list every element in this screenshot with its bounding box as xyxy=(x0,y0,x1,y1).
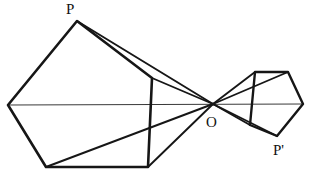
axis-line-group xyxy=(8,104,303,105)
ray-O-to-top-right-prime xyxy=(213,72,288,104)
geometry-figure: P O P' xyxy=(0,0,310,176)
vertex-label-p-prime: P' xyxy=(273,143,284,158)
figure-canvas xyxy=(0,0,310,176)
vertex-label-p: P xyxy=(66,2,74,17)
ray-O-to-right-top xyxy=(152,78,213,104)
left-polygon-group xyxy=(8,21,152,167)
left-polygon-outline xyxy=(8,21,152,167)
ray-O-to-bottom-left xyxy=(46,104,213,167)
vertex-label-o: O xyxy=(206,115,217,130)
center-point-O xyxy=(211,102,214,105)
axis-line xyxy=(8,104,303,105)
center-point-group xyxy=(211,102,214,105)
projection-rays-group xyxy=(46,21,288,167)
ray-O-to-P xyxy=(77,21,213,104)
ray-O-to-bottom-right xyxy=(148,104,213,167)
